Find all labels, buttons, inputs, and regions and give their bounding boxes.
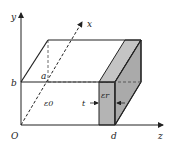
- point-b-label: b: [11, 78, 17, 88]
- axes: [21, 13, 163, 125]
- point-a-label: a: [41, 71, 46, 81]
- capacitor-diagram: y x z O a b d ε0 εr t: [0, 0, 175, 143]
- point-d-label: d: [111, 131, 117, 141]
- origin-label: O: [11, 131, 19, 141]
- dielectric-permittivity-label: εr: [101, 91, 110, 100]
- y-axis-label: y: [10, 12, 17, 22]
- x-axis: [21, 22, 82, 125]
- z-axis-label: z: [157, 131, 163, 141]
- thickness-label: t: [82, 99, 86, 108]
- vacuum-permittivity-label: ε0: [44, 99, 53, 108]
- x-axis-label: x: [87, 19, 92, 29]
